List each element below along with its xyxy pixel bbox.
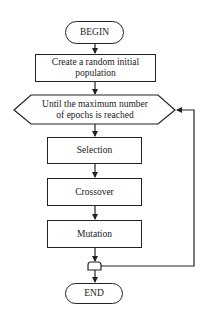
loop-condition-label: Until the maximum number of epochs is re… [30,96,160,123]
init-population-box: Create a random initial population [35,54,156,82]
crossover-box: Crossover [47,178,142,206]
begin-label: BEGIN [80,27,109,38]
init-label-line1: Create a random initial [52,57,139,68]
begin-terminal: BEGIN [65,21,124,44]
selection-label: Selection [77,145,112,156]
selection-box: Selection [47,137,142,164]
crossover-label: Crossover [75,187,114,198]
init-label-line2: population [75,68,116,79]
mutation-label: Mutation [77,229,112,240]
junction-connector [88,262,101,270]
mutation-box: Mutation [47,220,142,248]
end-terminal: END [65,283,123,304]
loop-label-line1: Until the maximum number [42,99,148,110]
loop-label-line2: of epochs is reached [56,110,133,121]
end-label: END [84,288,104,299]
